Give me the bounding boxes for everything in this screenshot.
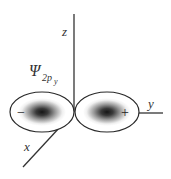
plus-sign: +	[121, 105, 129, 120]
positive-lobe	[75, 92, 139, 132]
orbital-figure: − + z y x Ψ 2p y	[0, 0, 171, 179]
minus-sign: −	[17, 105, 25, 120]
wavefunction-label: Ψ 2p y	[29, 62, 58, 86]
y-axis-label: y	[146, 96, 154, 111]
psi-sub-subscript: y	[53, 77, 58, 86]
psi-subscript: 2p	[42, 72, 52, 83]
psi-symbol: Ψ	[29, 62, 42, 79]
orbital-diagram: − + z y x Ψ 2p y	[0, 0, 171, 179]
z-axis-label: z	[61, 24, 67, 39]
x-axis-label: x	[23, 139, 30, 154]
